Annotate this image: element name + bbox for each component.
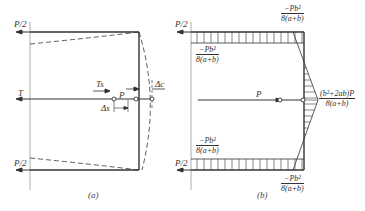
moment-label-top-left: −Pb² 8(a+b): [196, 45, 219, 64]
load-label-bottom-a: P/2: [14, 159, 27, 168]
caption-b: (b): [257, 190, 268, 200]
tension-label: T: [18, 89, 23, 98]
moment-label-bottom-left: −Pb² 8(a+b): [196, 136, 219, 155]
caption-a: (a): [88, 190, 99, 200]
delta-c-label: Δc: [155, 80, 164, 89]
moment-label-bottom-corner: −Pb² 8(a+b): [281, 174, 304, 193]
load-label-bottom-b: P/2: [175, 159, 188, 168]
load-label-top-a: P/2: [14, 20, 27, 29]
frame-a: [16, 22, 165, 190]
p-label-a: P: [119, 91, 125, 100]
moment-label-top-corner: −Pb² 8(a+b): [281, 4, 304, 23]
moment-label-mid-right: (b²+2ab)P 8(a+b): [319, 89, 355, 108]
ts-label: Ts: [96, 80, 104, 89]
delta-s-label: Δs: [101, 104, 110, 113]
load-label-top-b: P/2: [175, 20, 188, 29]
p-label-b: P: [256, 90, 262, 99]
diagram-canvas: [0, 0, 365, 211]
